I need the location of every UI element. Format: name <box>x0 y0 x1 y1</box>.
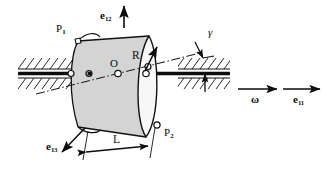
label-gamma-text: γ <box>208 26 212 38</box>
e13-arrow <box>62 128 85 152</box>
label-radius-r-text: R <box>132 49 140 61</box>
gamma-angle-indicator <box>195 42 214 58</box>
p2-node <box>154 122 160 128</box>
label-center-o-text: O <box>110 57 118 69</box>
label-e11-sub: 11 <box>298 99 304 106</box>
label-center-o: O <box>110 58 118 69</box>
label-omega: ω <box>251 94 259 105</box>
rotor-cylinder <box>71 34 157 137</box>
p1-node <box>75 38 81 44</box>
label-gamma: γ <box>208 27 212 38</box>
label-p2-sub: 2 <box>170 132 173 139</box>
label-e12: e12 <box>100 10 111 21</box>
label-length-l-text: L <box>113 133 120 145</box>
label-e11: e11 <box>293 94 304 105</box>
label-e12-sub: 12 <box>105 15 111 22</box>
label-e13: e13 <box>46 141 57 152</box>
label-p1-sub: 1 <box>62 28 65 35</box>
rotor-diagram-figure: e12 P1 O R γ ω e11 e13 P2 L <box>0 0 324 176</box>
label-omega-text: ω <box>251 93 259 105</box>
label-p2: P2 <box>164 127 173 138</box>
label-p1: P1 <box>56 23 65 34</box>
label-length-l: L <box>113 134 120 146</box>
label-e13-sub: 13 <box>51 146 57 153</box>
label-radius-r: R <box>132 50 140 62</box>
